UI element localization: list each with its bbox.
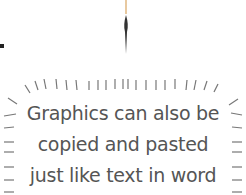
caption-text: Graphics can also be copied and pasted j… (0, 98, 246, 191)
caption-line-2: copied and pasted (0, 129, 246, 160)
caption-line-1: Graphics can also be (0, 98, 246, 129)
caption-line-3: just like text in word (0, 160, 246, 191)
